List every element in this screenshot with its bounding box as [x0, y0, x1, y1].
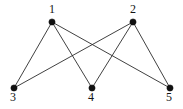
graph-figure: 12345 — [0, 0, 183, 109]
vertex-label-3: 3 — [10, 91, 16, 103]
graph-edge-1-5 — [52, 22, 170, 88]
nodes-group — [11, 19, 173, 91]
vertex-label-4: 4 — [88, 91, 94, 103]
graph-edge-1-3 — [14, 22, 52, 88]
graph-vertex-2 — [130, 19, 136, 25]
graph-edge-2-4 — [92, 22, 133, 88]
vertex-label-2: 2 — [130, 3, 136, 15]
graph-vertex-1 — [49, 19, 55, 25]
graph-edge-2-3 — [14, 22, 133, 88]
vertex-label-1: 1 — [49, 3, 55, 15]
vertex-label-5: 5 — [166, 91, 172, 103]
edges-group — [14, 22, 170, 88]
graph-edge-1-4 — [52, 22, 92, 88]
